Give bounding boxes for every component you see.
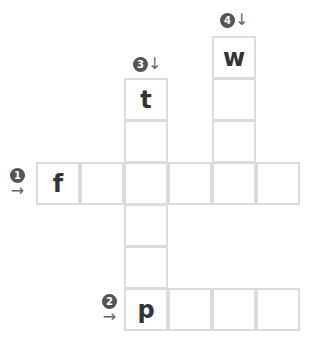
cell-2-across-2[interactable] — [168, 288, 212, 331]
cell-3-down-5[interactable] — [124, 246, 168, 289]
cell-1-across-3[interactable] — [124, 162, 168, 205]
cell-4-down-3[interactable] — [212, 120, 256, 163]
clue-4-down-marker: 4 ↓ — [220, 12, 248, 28]
arrow-right-icon: → — [103, 309, 116, 325]
clue-number-badge: 3 — [133, 57, 148, 72]
cell-2-across-1[interactable]: p — [124, 288, 168, 331]
cell-1-across-1[interactable]: f — [36, 162, 80, 205]
cell-3-down-4[interactable] — [124, 204, 168, 247]
clue-3-down-marker: 3 ↓ — [133, 56, 161, 72]
cell-3-down-1[interactable]: t — [124, 78, 168, 121]
cell-1-across-2[interactable] — [80, 162, 124, 205]
arrow-right-icon: → — [11, 183, 24, 199]
cell-2-across-4[interactable] — [256, 288, 300, 331]
clue-2-across-marker: 2 → — [102, 294, 117, 325]
cell-1-across-4[interactable] — [168, 162, 212, 205]
cell-2-across-3[interactable] — [212, 288, 256, 331]
cell-3-down-2[interactable] — [124, 120, 168, 163]
arrow-down-icon: ↓ — [235, 12, 248, 28]
cell-4-down-1[interactable]: w — [212, 36, 256, 79]
clue-1-across-marker: 1 → — [10, 168, 25, 199]
arrow-down-icon: ↓ — [148, 56, 161, 72]
cell-4-down-2[interactable] — [212, 78, 256, 121]
cell-1-across-5[interactable] — [212, 162, 256, 205]
cell-1-across-6[interactable] — [256, 162, 300, 205]
clue-number-badge: 4 — [220, 13, 235, 28]
